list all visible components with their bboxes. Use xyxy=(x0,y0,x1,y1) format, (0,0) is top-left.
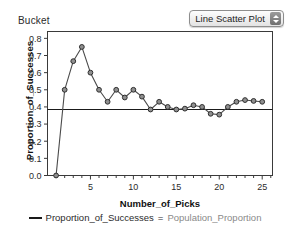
legend-reference-name: Population_Proportion xyxy=(167,212,261,223)
y-tick-label: 0.7 xyxy=(29,51,42,61)
legend: Proportion_of_Successes = Population_Pro… xyxy=(0,212,290,223)
x-tick-label: 25 xyxy=(257,182,267,192)
data-point[interactable] xyxy=(131,87,136,92)
data-point[interactable] xyxy=(225,105,230,110)
data-point[interactable] xyxy=(79,45,84,50)
y-tick-label: 0.0 xyxy=(29,171,42,181)
legend-equals: = xyxy=(158,212,164,223)
data-point[interactable] xyxy=(54,173,59,178)
y-tick-label: 0.8 xyxy=(29,34,42,44)
data-point[interactable] xyxy=(105,99,110,104)
data-point[interactable] xyxy=(234,99,239,104)
data-point[interactable] xyxy=(140,94,145,99)
line-scatter-plot-applet: Bucket Line Scatter Plot Proportion_of_S… xyxy=(0,0,290,234)
data-point[interactable] xyxy=(97,87,102,92)
y-tick-label: 0.4 xyxy=(29,102,42,112)
data-point[interactable] xyxy=(114,87,119,92)
data-point[interactable] xyxy=(243,98,248,103)
data-point[interactable] xyxy=(165,105,170,110)
x-tick-label: 15 xyxy=(171,182,181,192)
y-tick-label: 0.3 xyxy=(29,119,42,129)
data-point[interactable] xyxy=(174,107,179,112)
data-point[interactable] xyxy=(183,106,188,111)
data-point[interactable] xyxy=(217,112,222,117)
legend-series-name: Proportion_of_Successes xyxy=(46,212,154,223)
x-tick-label: 20 xyxy=(214,182,224,192)
x-tick-label: 5 xyxy=(88,182,93,192)
data-point[interactable] xyxy=(62,87,67,92)
y-tick-label: 0.5 xyxy=(29,85,42,95)
data-point[interactable] xyxy=(71,59,76,64)
y-tick-label: 0.1 xyxy=(29,154,42,164)
data-point[interactable] xyxy=(260,99,265,104)
x-tick-label: 10 xyxy=(128,182,138,192)
data-point[interactable] xyxy=(148,107,153,112)
data-point[interactable] xyxy=(200,105,205,110)
data-point[interactable] xyxy=(251,99,256,104)
y-tick-label: 0.2 xyxy=(29,137,42,147)
data-point[interactable] xyxy=(88,70,93,75)
data-point[interactable] xyxy=(191,103,196,108)
data-point[interactable] xyxy=(208,111,213,116)
data-point[interactable] xyxy=(157,99,162,104)
y-tick-label: 0.6 xyxy=(29,68,42,78)
data-point[interactable] xyxy=(122,95,127,100)
line-swatch-icon xyxy=(29,217,42,219)
chart-canvas: 5101520250.00.10.20.30.40.50.60.70.8 xyxy=(0,0,290,234)
